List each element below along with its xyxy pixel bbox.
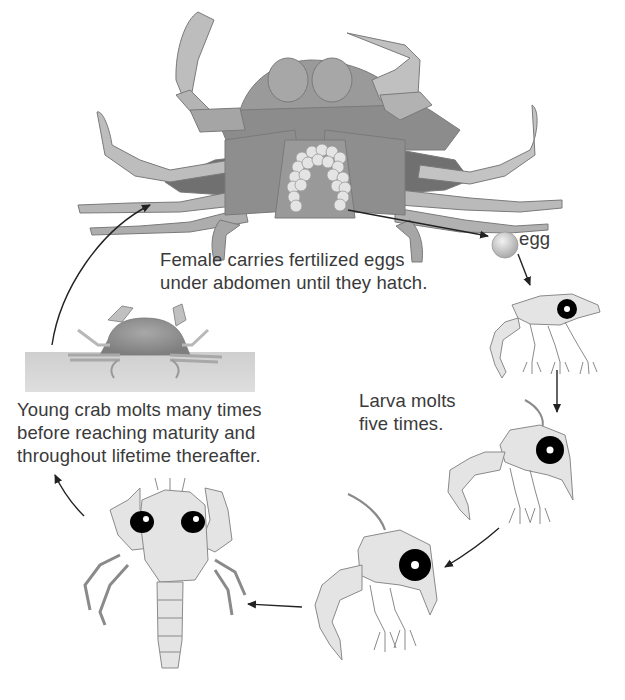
egg-illustration [492, 232, 518, 258]
diagram-artwork [0, 0, 625, 700]
label-line: throughout lifetime thereafter. [17, 444, 262, 467]
larva-stage-3 [315, 494, 437, 660]
adult-female-crab [78, 12, 562, 262]
label-egg: egg [519, 227, 550, 250]
label-line: Female carries fertilized eggs [160, 248, 427, 271]
label-line: under abdomen until they hatch. [160, 271, 427, 294]
crab-life-cycle-diagram: Female carries fertilized eggs under abd… [0, 0, 625, 700]
label-female-carries-eggs: Female carries fertilized eggs under abd… [160, 248, 427, 294]
label-line: Young crab molts many times [17, 398, 262, 421]
megalopa [85, 478, 245, 668]
arrow-larva3-to-megalopa [248, 604, 302, 607]
larva-stage-1 [490, 294, 600, 378]
arrow-egg-to-larva1 [518, 254, 530, 285]
larva-stage-2 [448, 400, 573, 524]
arrow-megalopa-to-young [55, 475, 84, 516]
label-line: five times. [359, 412, 456, 435]
arrow-larva2-to-larva3 [445, 528, 499, 567]
label-line: egg [519, 227, 550, 250]
label-line: before reaching maturity and [17, 421, 262, 444]
label-larva-molts: Larva molts five times. [359, 389, 456, 435]
label-young-crab-molts: Young crab molts many times before reach… [17, 398, 262, 467]
label-line: Larva molts [359, 389, 456, 412]
